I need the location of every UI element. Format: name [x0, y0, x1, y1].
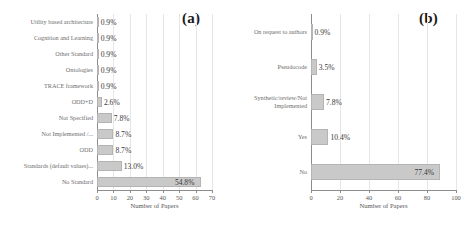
x-tick	[97, 190, 98, 193]
grid-line	[212, 14, 213, 190]
x-tick-label: 70	[209, 194, 215, 201]
x-tick	[113, 190, 114, 193]
bar-row: Yes10.4%	[311, 120, 456, 155]
panel-a-plot: 010203040506070Utility based architectur…	[97, 14, 212, 190]
bar-value-label: 3.5%	[319, 62, 335, 71]
bar-value-label: 77.4%	[400, 168, 434, 177]
panel-b-xaxis-title: Number of Papers	[311, 202, 456, 209]
x-tick-label: 0	[309, 194, 312, 201]
bar	[97, 97, 102, 107]
category-label: Cognition and Learning	[34, 34, 97, 42]
category-label: Not Specified	[59, 114, 97, 122]
bar-value-label: 7.8%	[114, 114, 130, 123]
x-tick-label: 20	[337, 194, 343, 201]
panel-b: (b) 020406080100On request to authors0.9…	[233, 0, 466, 230]
x-tick-label: 100	[451, 194, 461, 201]
bar	[97, 81, 99, 91]
x-tick-label: 10	[110, 194, 116, 201]
x-tick	[212, 190, 213, 193]
x-tick	[340, 190, 341, 193]
bar-row: Not Implemented /...8.7%	[97, 126, 212, 142]
category-label: Not Implemented /...	[42, 130, 97, 138]
bar-value-label: 8.7%	[115, 146, 131, 155]
category-label: ODD	[80, 146, 97, 154]
x-tick-label: 40	[160, 194, 166, 201]
bar	[97, 113, 112, 123]
panel-b-plot: 020406080100On request to authors0.9%Pse…	[311, 14, 456, 190]
bar	[311, 129, 328, 145]
category-label: Synthetic/review/Not Implemented	[229, 94, 311, 109]
bar-row: Synthetic/review/Not Implemented7.8%	[311, 84, 456, 119]
category-label: Standards (default values)...	[24, 162, 97, 170]
x-tick-label: 30	[143, 194, 149, 201]
bar-row: TRACE framework0.9%	[97, 78, 212, 94]
bar-row: Other Standard0.9%	[97, 46, 212, 62]
x-tick-label: 80	[424, 194, 430, 201]
bar-row: ODD8.7%	[97, 142, 212, 158]
panel-a-xaxis-title: Number of Papers	[97, 202, 212, 209]
bar	[311, 24, 313, 40]
bar-value-label: 54.8%	[161, 178, 195, 187]
category-label: Pseudocode	[277, 63, 311, 71]
bar-value-label: 13.0%	[124, 162, 144, 171]
x-tick	[427, 190, 428, 193]
bar-row: Standards (default values)...13.0%	[97, 158, 212, 174]
bar-value-label: 7.8%	[326, 97, 342, 106]
category-label: Yes	[298, 133, 311, 141]
x-tick-label: 20	[127, 194, 133, 201]
bar-value-label: 10.4%	[330, 133, 350, 142]
x-tick-label: 50	[176, 194, 182, 201]
bar-value-label: 2.6%	[104, 98, 120, 107]
bar-row: Not Specified7.8%	[97, 110, 212, 126]
bar-value-label: 0.9%	[314, 27, 330, 36]
bar	[97, 129, 113, 139]
category-label: Utility based architecture	[30, 18, 97, 26]
bar-value-label: 8.7%	[115, 130, 131, 139]
x-tick-label: 60	[395, 194, 401, 201]
x-tick	[130, 190, 131, 193]
bar-value-label: 0.9%	[101, 18, 117, 27]
x-tick	[163, 190, 164, 193]
bar	[97, 145, 113, 155]
x-tick	[196, 190, 197, 193]
category-label: ODD+D	[72, 98, 97, 106]
x-tick	[398, 190, 399, 193]
x-tick	[369, 190, 370, 193]
x-tick	[311, 190, 312, 193]
x-tick-label: 40	[366, 194, 372, 201]
bar-row: No Standard54.8%	[97, 174, 212, 190]
bar	[97, 49, 99, 59]
bar	[97, 161, 122, 171]
bar	[97, 65, 99, 75]
bar	[97, 33, 99, 43]
bar	[311, 94, 324, 110]
bar-row: No77.4%	[311, 155, 456, 190]
category-label: Ontologies	[66, 66, 97, 74]
bar-row: Ontologies0.9%	[97, 62, 212, 78]
bar-row: Utility based architecture0.9%	[97, 14, 212, 30]
x-tick	[456, 190, 457, 193]
category-label: TRACE framework	[44, 82, 97, 90]
category-label: On request to authors	[254, 28, 311, 36]
bar	[97, 17, 99, 27]
bar-row: Cognition and Learning0.9%	[97, 30, 212, 46]
figure-canvas: (a) 010203040506070Utility based archite…	[0, 0, 466, 230]
bar-value-label: 0.9%	[101, 50, 117, 59]
grid-line	[456, 14, 457, 190]
bar	[311, 59, 317, 75]
category-label: No	[299, 169, 311, 177]
bar-value-label: 0.9%	[101, 82, 117, 91]
category-label: Other Standard	[55, 50, 97, 58]
bar-value-label: 0.9%	[101, 34, 117, 43]
x-tick-label: 0	[95, 194, 98, 201]
x-tick	[179, 190, 180, 193]
x-tick-label: 60	[192, 194, 198, 201]
bar-row: ODD+D2.6%	[97, 94, 212, 110]
x-axis-line	[311, 190, 456, 191]
bar-row: On request to authors0.9%	[311, 14, 456, 49]
x-tick	[146, 190, 147, 193]
bar-row: Pseudocode3.5%	[311, 49, 456, 84]
category-label: No Standard	[62, 178, 97, 186]
bar-value-label: 0.9%	[101, 66, 117, 75]
panel-a: (a) 010203040506070Utility based archite…	[0, 0, 233, 230]
